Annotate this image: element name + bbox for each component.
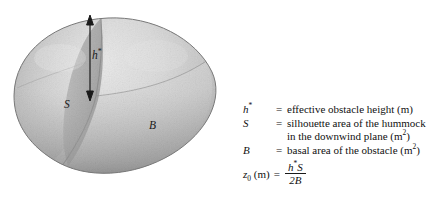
legend-row-silhouette-area-cont: in the downwind plane (m2) <box>243 130 438 144</box>
hummock-illustration <box>0 0 232 204</box>
notation-legend: h* = effective obstacle height (m) S = s… <box>243 103 438 186</box>
formula-numerator: h*S <box>285 161 306 173</box>
label-basal-area: B <box>149 120 156 132</box>
legend-definition-basal-area: basal area of the obstacle (m2) <box>287 144 420 158</box>
label-effective-height: h* <box>92 50 102 62</box>
legend-row-silhouette-area: S = silhouette area of the hummock <box>243 117 438 131</box>
legend-row-effective-height: h* = effective obstacle height (m) <box>243 103 438 117</box>
hummock-body <box>0 18 232 204</box>
legend-symbol-s: S <box>243 117 276 131</box>
legend-equals-sign: = <box>276 144 287 158</box>
formula-denominator: 2B <box>286 174 304 186</box>
formula-left-hand-side: z0 (m) <box>243 168 270 180</box>
figure-root: h* S B h* = effective obstacle height (m… <box>0 0 438 204</box>
legend-definition-downwind-plane: in the downwind plane (m2) <box>287 130 410 144</box>
legend-symbol-b: B <box>243 144 276 158</box>
legend-definition-effective-height: effective obstacle height (m) <box>287 103 413 117</box>
legend-equals-sign: = <box>276 103 287 117</box>
formula-equals-sign: = <box>274 168 280 180</box>
label-silhouette-area: S <box>64 99 70 111</box>
hummock-diagram: h* S B <box>0 0 232 204</box>
roughness-length-formula: z0 (m) = h*S 2B <box>243 161 438 186</box>
legend-equals-sign: = <box>276 117 287 131</box>
legend-symbol-h-star: h* <box>243 103 276 117</box>
formula-fraction: h*S 2B <box>285 161 306 186</box>
legend-row-basal-area: B = basal area of the obstacle (m2) <box>243 144 438 158</box>
